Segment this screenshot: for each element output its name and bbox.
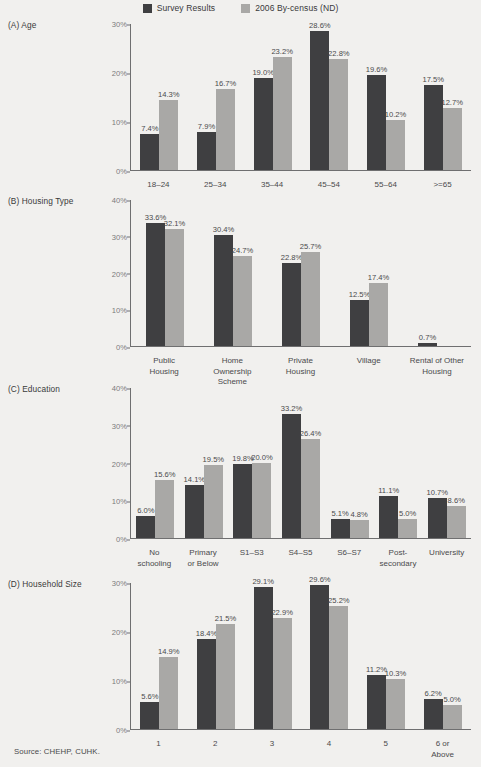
- bar-slot: 20.0%: [252, 388, 271, 538]
- bar-value-label: 14.3%: [158, 90, 180, 99]
- bar[interactable]: 6.2%: [424, 699, 443, 729]
- bar[interactable]: 5.0%: [443, 705, 462, 729]
- bar-value-label: 7.9%: [198, 122, 215, 131]
- chart-panel-panel-d-household-size: (D) Household Size0%10%20%30%5.6%14.9%18…: [0, 576, 481, 767]
- bar[interactable]: 5.1%: [331, 519, 350, 538]
- y-axis-tick-label: 20%: [112, 459, 127, 468]
- bar[interactable]: 19.6%: [367, 75, 386, 170]
- bar[interactable]: 29.6%: [310, 585, 329, 729]
- bar[interactable]: 11.1%: [379, 496, 398, 538]
- bar[interactable]: 6.0%: [136, 516, 155, 539]
- bar-slot: 30.4%: [214, 200, 233, 346]
- bar-slot: [437, 200, 456, 346]
- bar[interactable]: 25.2%: [329, 606, 348, 729]
- bar[interactable]: 33.6%: [146, 223, 165, 346]
- x-axis-tick-label: Primary or Below: [179, 544, 228, 569]
- plot-area: 0%10%20%30%40%6.0%15.6%14.1%19.5%19.8%20…: [130, 388, 471, 539]
- bar[interactable]: 16.7%: [216, 89, 235, 170]
- bar[interactable]: 18.4%: [197, 639, 216, 729]
- bar[interactable]: 20.0%: [252, 463, 271, 538]
- bar[interactable]: 32.1%: [165, 229, 184, 346]
- bar[interactable]: 25.7%: [301, 252, 320, 346]
- x-axis-tick-label: 18–24: [130, 176, 187, 191]
- bar-value-label: 5.0%: [399, 509, 416, 518]
- bar-group: 6.2%5.0%: [414, 583, 471, 729]
- y-axis-tick-label: 20%: [112, 269, 127, 278]
- bar[interactable]: 7.9%: [197, 132, 216, 170]
- bar-value-label: 14.9%: [158, 647, 180, 656]
- bar[interactable]: 28.6%: [310, 31, 329, 170]
- bar-slot: 12.7%: [443, 24, 462, 170]
- bar-group: 17.5%12.7%: [414, 24, 471, 170]
- bar[interactable]: 11.2%: [367, 675, 386, 730]
- bar-slot: 5.0%: [443, 583, 462, 729]
- bar[interactable]: 19.0%: [254, 78, 273, 170]
- bar-slot: 28.6%: [310, 24, 329, 170]
- bar[interactable]: 19.8%: [233, 464, 252, 538]
- bar[interactable]: 21.5%: [216, 624, 235, 729]
- x-axis-labels: Public HousingHome Ownership SchemePriva…: [130, 352, 471, 388]
- bar[interactable]: 30.4%: [214, 235, 233, 346]
- bar-value-label: 26.4%: [300, 429, 322, 438]
- bar-group: 10.7%8.6%: [422, 388, 471, 538]
- bar[interactable]: 8.6%: [447, 506, 466, 538]
- bar-slot: 19.8%: [233, 388, 252, 538]
- bar-value-label: 10.2%: [385, 110, 407, 119]
- bar[interactable]: 22.8%: [282, 263, 301, 346]
- x-axis-tick-label: 1: [130, 735, 187, 760]
- bar[interactable]: 19.5%: [204, 465, 223, 538]
- y-axis-tick-label: 40%: [112, 384, 127, 393]
- bar[interactable]: 17.5%: [424, 85, 443, 170]
- bar-value-label: 22.8%: [281, 253, 303, 262]
- bar-value-label: 19.0%: [252, 68, 274, 77]
- bar[interactable]: 15.6%: [155, 480, 174, 539]
- bar[interactable]: 10.3%: [386, 679, 405, 729]
- x-axis-tick-label: Post- secondary: [374, 544, 423, 569]
- y-axis-tick-mark: [127, 681, 130, 682]
- bar[interactable]: 12.5%: [350, 300, 369, 346]
- bar[interactable]: 4.8%: [350, 520, 369, 538]
- bar[interactable]: 5.6%: [140, 702, 159, 729]
- bar-slot: 5.1%: [331, 388, 350, 538]
- bar-group: 12.5%17.4%: [335, 200, 403, 346]
- legend-label: Survey Results: [157, 3, 216, 13]
- bar[interactable]: 10.7%: [428, 498, 447, 538]
- y-axis-tick-mark: [127, 539, 130, 540]
- bar[interactable]: 22.9%: [273, 618, 292, 729]
- bar-value-label: 33.2%: [281, 404, 303, 413]
- bar-slot: 21.5%: [216, 583, 235, 729]
- bar-slot: 15.6%: [155, 388, 174, 538]
- bar[interactable]: 17.4%: [369, 283, 388, 347]
- x-axis-tick-label: University: [422, 544, 471, 569]
- bar[interactable]: 5.0%: [398, 519, 417, 538]
- bar[interactable]: 22.8%: [329, 59, 348, 170]
- bar[interactable]: 24.7%: [233, 256, 252, 346]
- bar[interactable]: 0.7%: [418, 343, 437, 346]
- bar-group: 19.6%10.2%: [358, 24, 415, 170]
- bar[interactable]: 14.3%: [159, 100, 178, 170]
- bar-slot: 5.0%: [398, 388, 417, 538]
- bar[interactable]: 12.7%: [443, 108, 462, 170]
- x-axis-tick-label: 45–54: [300, 176, 357, 191]
- x-axis-tick-label: 35–44: [244, 176, 301, 191]
- bar[interactable]: 33.2%: [282, 414, 301, 539]
- x-axis-tick-label: Home Ownership Scheme: [198, 352, 266, 388]
- bar[interactable]: 14.1%: [185, 485, 204, 538]
- x-axis: [130, 346, 471, 347]
- bar-value-label: 25.2%: [328, 596, 350, 605]
- plot-area: 0%10%20%30%40%33.6%32.1%30.4%24.7%22.8%2…: [130, 200, 471, 347]
- bar[interactable]: 23.2%: [273, 57, 292, 170]
- y-axis-tick-label: 0%: [116, 726, 127, 735]
- bar[interactable]: 29.1%: [254, 587, 273, 729]
- bar-slot: 0.7%: [418, 200, 437, 346]
- bar[interactable]: 26.4%: [301, 439, 320, 538]
- bar-value-label: 22.8%: [328, 49, 350, 58]
- bar-slot: 6.0%: [136, 388, 155, 538]
- x-axis-tick-label: Village: [335, 352, 403, 388]
- bar[interactable]: 7.4%: [140, 134, 159, 170]
- bar[interactable]: 10.2%: [386, 120, 405, 170]
- bar[interactable]: 14.9%: [159, 657, 178, 730]
- x-axis-tick-label: Private Housing: [266, 352, 334, 388]
- bar-groups: 6.0%15.6%14.1%19.5%19.8%20.0%33.2%26.4%5…: [131, 388, 471, 538]
- plot-area: 0%10%20%30%5.6%14.9%18.4%21.5%29.1%22.9%…: [130, 583, 471, 730]
